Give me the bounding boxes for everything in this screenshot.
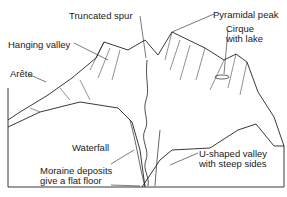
glacial-landscape-diagram: Truncated spur Pyramidal peak Cirque wit… [0,0,287,197]
label-waterfall: Waterfall [72,143,109,153]
label-arete: Arête [10,69,33,79]
label-u-valley: U-shaped valley with steep sides [199,149,267,169]
label-cirque: Cirque with lake [226,24,263,44]
label-pyramidal-peak: Pyramidal peak [213,10,278,20]
label-u-valley-line2: with steep sides [199,159,267,169]
label-moraine: Moraine deposits give a flat floor [40,166,112,186]
label-cirque-line2: with lake [226,34,263,44]
label-truncated-spur: Truncated spur [69,11,133,21]
label-hanging-valley: Hanging valley [8,40,70,50]
label-moraine-line2: give a flat floor [40,176,112,186]
